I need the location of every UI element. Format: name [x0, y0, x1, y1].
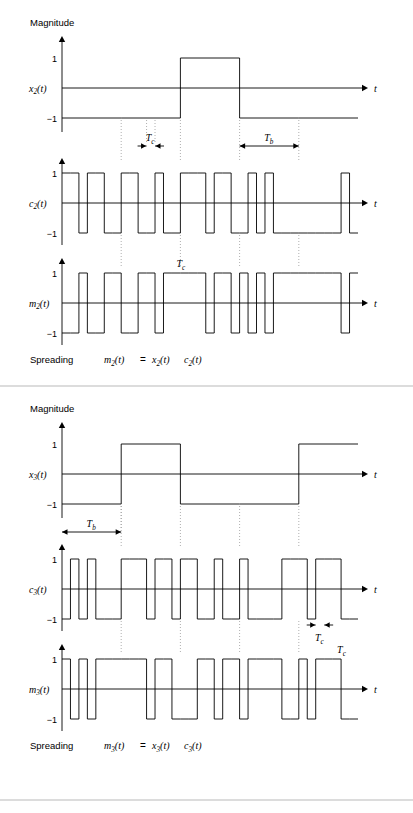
- group-2-equation-x: x2(t): [151, 354, 170, 368]
- group-2-marker-tc-left-head: [141, 143, 146, 149]
- c3-tick-neg: −1: [47, 615, 57, 625]
- group-3-markers: Tb: [62, 506, 121, 535]
- m3-signal-label-text: m3(t): [29, 684, 50, 698]
- group-3-marker-tb-right-head: [116, 529, 122, 535]
- m3-t-label: t: [374, 684, 377, 695]
- group-2-magnitude-label: Magnitude: [30, 17, 74, 28]
- group-3-equation-m-text: m3(t): [104, 740, 125, 754]
- group-3-spreading-label: Spreading: [30, 740, 73, 751]
- c3-t-axis-arrowhead: [362, 586, 368, 592]
- x2-tick-pos: 1: [52, 54, 57, 64]
- group-2-equation-c: c2(t): [184, 354, 202, 368]
- group-3-panel-x3: t1−1x3(t): [28, 422, 377, 518]
- group-2-equation-eq: =: [140, 354, 146, 365]
- m2-y-axis: [59, 258, 65, 345]
- group-3-equation-eq: =: [140, 740, 146, 751]
- c2-tick-pos: 1: [52, 169, 57, 179]
- x3-signal-label: x3(t): [28, 469, 47, 483]
- m3-tick-pos: 1: [52, 655, 57, 665]
- group-3: Magnitudet1−1x3(t)t1−1c3(t)t1−1m3(t)TcSp…: [28, 403, 377, 754]
- group-3-equation-c: c3(t): [184, 740, 202, 754]
- figure-canvas: Magnitudet1−1x2(t)t1−1c2(t)t1−1m2(t)TcSp…: [0, 0, 413, 813]
- x2-y-axis-arrowhead: [59, 36, 65, 42]
- group-3-panel-c3: t1−1c3(t): [29, 544, 377, 631]
- group-2-marker-tc-label-text: Tc: [146, 132, 156, 146]
- m2-tc-annotation-text: Tc: [176, 258, 186, 272]
- group-3-marker-tb-label: Tb: [87, 518, 97, 532]
- m3-y-axis-arrowhead: [59, 644, 65, 650]
- m3-t-axis-arrowhead: [362, 686, 368, 692]
- c3-tick-pos: 1: [52, 555, 57, 565]
- group-2-marker-tc-right-head: [156, 143, 161, 149]
- x2-signal-label-text: x2(t): [28, 83, 47, 97]
- group-2-marker-tb-label: Tb: [264, 132, 274, 146]
- c2-signal-label: c2(t): [29, 198, 47, 212]
- c2-y-axis: [59, 158, 65, 245]
- x2-signal-label: x2(t): [28, 83, 47, 97]
- x3-t-label: t: [374, 469, 377, 480]
- group-2-marker-tc-label: Tc: [146, 132, 156, 146]
- m2-tc-annotation: Tc: [176, 258, 186, 272]
- c2-signal-label-text: c2(t): [29, 198, 47, 212]
- group-3-marker-tb-label-text: Tb: [87, 518, 97, 532]
- m3-tc-annotation-text: Tc: [337, 644, 347, 658]
- group-2-markers: TcTb: [138, 120, 299, 149]
- group-2-equation-x-text: x2(t): [151, 354, 170, 368]
- m2-signal-label: m2(t): [29, 298, 50, 312]
- m3-y-axis: [59, 644, 65, 731]
- group-2-marker-tb-left-head: [240, 143, 246, 149]
- group-2-equation-m-text: m2(t): [104, 354, 125, 368]
- group-2-spreading-label: Spreading: [30, 354, 73, 365]
- x2-tick-neg: −1: [47, 114, 57, 124]
- x2-t-axis-arrowhead: [362, 85, 368, 91]
- m3-tc-annotation: Tc: [337, 644, 347, 658]
- group-2: Magnitudet1−1x2(t)t1−1c2(t)t1−1m2(t)TcSp…: [28, 17, 377, 368]
- group-2-equation: m2(t)=x2(t)c2(t): [104, 354, 202, 368]
- group-2-panel-x2: t1−1x2(t): [28, 36, 377, 132]
- m2-t-label: t: [374, 298, 377, 309]
- c3-y-axis-arrowhead: [59, 544, 65, 550]
- c2-t-label: t: [374, 198, 377, 209]
- m2-tick-pos: 1: [52, 269, 57, 279]
- x3-t-axis: [62, 471, 368, 477]
- group-3-marker-tc-right-head: [325, 622, 330, 628]
- group-3-equation-m: m3(t): [104, 740, 125, 754]
- m3-t-axis: [62, 686, 368, 692]
- group-2-marker-tb: Tb: [240, 132, 299, 149]
- x3-y-axis-arrowhead: [59, 422, 65, 428]
- x3-tick-pos: 1: [52, 440, 57, 450]
- group-3-magnitude-label: Magnitude: [30, 403, 74, 414]
- group-2-equation-m: m2(t): [104, 354, 125, 368]
- group-3-marker-tc-label-text: Tc: [315, 632, 325, 646]
- group-3-marker-tc-group: Tc: [307, 622, 333, 645]
- c3-t-axis: [62, 586, 368, 592]
- group-3-equation-x-text: x3(t): [151, 740, 170, 754]
- c2-t-axis: [62, 200, 368, 206]
- group-2-equation-c-text: c2(t): [184, 354, 202, 368]
- group-3-equation: m3(t)=x3(t)c3(t): [104, 740, 202, 754]
- c2-t-axis-arrowhead: [362, 200, 368, 206]
- group-2-marker-tc: Tc: [138, 132, 164, 149]
- m2-y-axis-arrowhead: [59, 258, 65, 264]
- group-3-equation-x: x3(t): [151, 740, 170, 754]
- group-3-marker-tb-left-head: [62, 529, 68, 535]
- group-3-equation-c-text: c3(t): [184, 740, 202, 754]
- group-2-panel-c2: t1−1c2(t): [29, 158, 377, 245]
- group-2-marker-tb-label-text: Tb: [264, 132, 274, 146]
- m3-tick-neg: −1: [47, 715, 57, 725]
- m2-t-axis-arrowhead: [362, 300, 368, 306]
- group-3-marker-tc-left-head: [310, 622, 315, 628]
- spread-spectrum-figure: Magnitudet1−1x2(t)t1−1c2(t)t1−1m2(t)TcSp…: [0, 0, 413, 813]
- x2-t-label: t: [374, 83, 377, 94]
- group-3-marker-tb: Tb: [62, 518, 121, 535]
- x3-t-axis-arrowhead: [362, 471, 368, 477]
- m2-tick-neg: −1: [47, 329, 57, 339]
- c3-signal-label: c3(t): [29, 584, 47, 598]
- group-2-marker-tb-right-head: [293, 143, 299, 149]
- c2-tick-neg: −1: [47, 229, 57, 239]
- group-3-marker-tc-label: Tc: [315, 632, 325, 646]
- c3-signal-label-text: c3(t): [29, 584, 47, 598]
- x2-t-axis: [62, 85, 368, 91]
- c2-y-axis-arrowhead: [59, 158, 65, 164]
- group-3-panel-m3: t1−1m3(t)Tc: [29, 644, 377, 731]
